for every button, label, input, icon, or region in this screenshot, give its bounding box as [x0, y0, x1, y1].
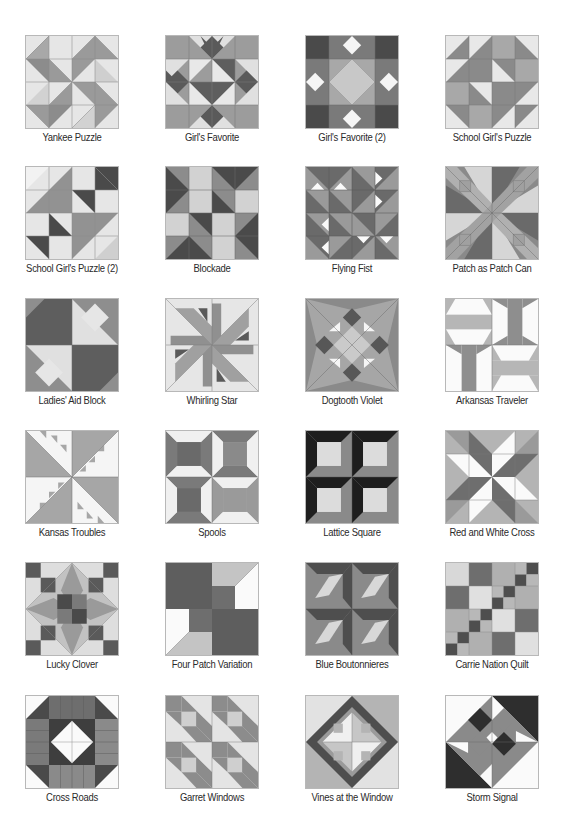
block-label: School Girl's Puzzle	[440, 131, 543, 143]
quilt-block-red-and-white-cross: Red and White Cross	[432, 430, 552, 538]
block-label: Carrie Nation Quilt	[440, 658, 543, 670]
quilt-block-lucky-clover: Lucky Clover	[12, 562, 132, 670]
quilt-block-patch-as-patch-can: Patch as Patch Can	[432, 166, 552, 274]
spools-illustration	[165, 430, 259, 524]
whirling-star-illustration	[165, 298, 259, 392]
garret-windows-illustration	[165, 695, 259, 789]
quilt-block-girls-favorite-2: Girl's Favorite (2)	[292, 35, 412, 143]
school-girls-puzzle-illustration	[445, 35, 539, 129]
block-label: Yankee Puzzle	[20, 131, 123, 143]
lattice-square-illustration	[305, 430, 399, 524]
block-label: Spools	[160, 526, 263, 538]
quilt-block-blue-boutonnieres: Blue Boutonnieres	[292, 562, 412, 670]
block-label: Patch as Patch Can	[440, 262, 543, 274]
carrie-nation-quilt-illustration	[445, 562, 539, 656]
girls-favorite-illustration	[165, 35, 259, 129]
quilt-block-storm-signal: Storm Signal	[432, 695, 552, 803]
quilt-block-carrie-nation-quilt: Carrie Nation Quilt	[432, 562, 552, 670]
block-label: Lattice Square	[300, 526, 403, 538]
quilt-block-blockade: Blockade	[152, 166, 272, 274]
quilt-block-garret-windows: Garret Windows	[152, 695, 272, 803]
block-label: Vines at the Window	[300, 791, 403, 803]
block-label: Girl's Favorite (2)	[300, 131, 403, 143]
quilt-block-whirling-star: Whirling Star	[152, 298, 272, 406]
block-label: Lucky Clover	[20, 658, 123, 670]
quilt-block-flying-fist: Flying Fist	[292, 166, 412, 274]
school-girls-puzzle-2-illustration	[25, 166, 119, 260]
block-label: Cross Roads	[20, 791, 123, 803]
block-label: Storm Signal	[440, 791, 543, 803]
block-label: Arkansas Traveler	[440, 394, 543, 406]
quilt-block-vines-at-the-window: Vines at the Window	[292, 695, 412, 803]
dogtooth-violet-illustration	[305, 298, 399, 392]
block-label: Four Patch Variation	[160, 658, 263, 670]
block-label: Kansas Troubles	[20, 526, 123, 538]
lucky-clover-illustration	[25, 562, 119, 656]
yankee-puzzle-illustration	[25, 35, 119, 129]
storm-signal-illustration	[445, 695, 539, 789]
quilt-block-lattice-square: Lattice Square	[292, 430, 412, 538]
block-label: Garret Windows	[160, 791, 263, 803]
quilt-block-cross-roads: Cross Roads	[12, 695, 132, 803]
ladies-aid-block-illustration	[25, 298, 119, 392]
quilt-block-ladies-aid-block: Ladies' Aid Block	[12, 298, 132, 406]
four-patch-variation-illustration	[165, 562, 259, 656]
block-label: School Girl's Puzzle (2)	[20, 262, 123, 274]
block-label: Dogtooth Violet	[300, 394, 403, 406]
girls-favorite-2-illustration	[305, 35, 399, 129]
block-label: Red and White Cross	[440, 526, 543, 538]
quilt-block-yankee-puzzle: Yankee Puzzle	[12, 35, 132, 143]
vines-at-the-window-illustration	[305, 695, 399, 789]
flying-fist-illustration	[305, 166, 399, 260]
quilt-block-four-patch-variation: Four Patch Variation	[152, 562, 272, 670]
block-label: Girl's Favorite	[160, 131, 263, 143]
kansas-troubles-illustration	[25, 430, 119, 524]
quilt-block-dogtooth-violet: Dogtooth Violet	[292, 298, 412, 406]
patch-as-patch-can-illustration	[445, 166, 539, 260]
red-and-white-cross-illustration	[445, 430, 539, 524]
quilt-block-school-girls-puzzle: School Girl's Puzzle	[432, 35, 552, 143]
block-label: Whirling Star	[160, 394, 263, 406]
blue-boutonnieres-illustration	[305, 562, 399, 656]
blockade-illustration	[165, 166, 259, 260]
block-label: Blockade	[160, 262, 263, 274]
block-label: Flying Fist	[300, 262, 403, 274]
quilt-block-school-girls-puzzle-2: School Girl's Puzzle (2)	[12, 166, 132, 274]
quilt-block-spools: Spools	[152, 430, 272, 538]
block-label: Ladies' Aid Block	[20, 394, 123, 406]
quilt-block-girls-favorite: Girl's Favorite	[152, 35, 272, 143]
quilt-block-arkansas-traveler: Arkansas Traveler	[432, 298, 552, 406]
arkansas-traveler-illustration	[445, 298, 539, 392]
block-label: Blue Boutonnieres	[300, 658, 403, 670]
cross-roads-illustration	[25, 695, 119, 789]
quilt-block-kansas-troubles: Kansas Troubles	[12, 430, 132, 538]
